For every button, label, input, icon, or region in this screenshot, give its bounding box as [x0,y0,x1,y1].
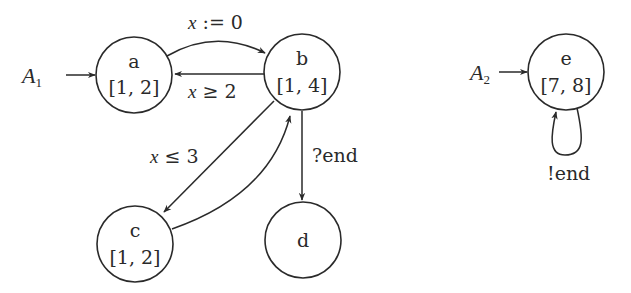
node-c: c [1, 2] [97,206,173,282]
automaton-a1-label: A1 [20,63,42,90]
node-e: e [7, 8] [528,34,604,110]
edge-e-self-loop [552,108,581,155]
automaton-a2-label: A2 [468,60,490,87]
edge-c-to-b [172,116,290,229]
edge-a-to-b [167,41,265,56]
node-e-label: e [560,47,571,69]
node-a-interval: [1, 2] [108,76,159,98]
node-e-interval: [7, 8] [540,74,591,96]
svg-text:A2: A2 [468,60,490,87]
node-b: b [1, 4] [264,34,340,110]
edge-a-to-b-label: x := 0 [187,11,243,33]
edge-e-self-loop-label: !end [547,162,590,184]
node-a: a [1, 2] [96,37,172,113]
node-b-interval: [1, 4] [276,74,327,96]
timed-automata-diagram: A1 x := 0 x ≥ 2 x ≤ 3 ?end a [1, 2] b [1… [0,0,631,293]
node-c-interval: [1, 2] [109,246,160,268]
edge-b-to-d-label: ?end [312,144,358,166]
svg-text:A1: A1 [20,63,42,90]
node-d: d [265,202,341,278]
node-c-label: c [130,219,141,241]
edge-b-to-a-label: x ≥ 2 [187,80,237,102]
node-a-label: a [128,50,139,72]
node-d-label: d [297,229,309,251]
node-b-label: b [296,47,308,69]
edge-b-to-c-label: x ≤ 3 [149,145,199,167]
